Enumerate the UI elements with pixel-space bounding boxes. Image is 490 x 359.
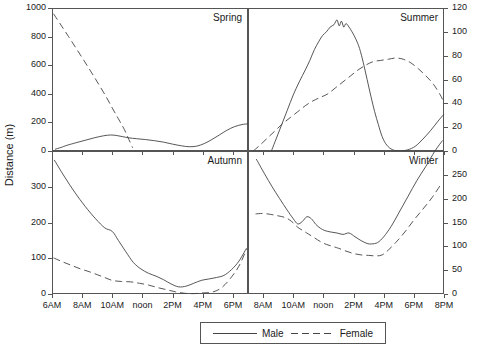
series-line-female [253,58,444,151]
y-tick-label: 150 [452,217,484,227]
y-axis-label: Distance (m) [0,0,20,310]
x-tick-mark [203,294,204,298]
y-tick-mark [444,56,448,57]
plot-area-spring [52,8,248,151]
y-tick-mark [444,103,448,104]
x-tick-mark [82,294,83,298]
y-tick-label: 60 [452,74,484,84]
y-tick-label: 1000 [16,2,46,12]
x-tick-mark [323,294,324,298]
legend-item-male: Male [213,328,284,339]
x-tick-mark [384,294,385,298]
x-tick-mark [173,294,174,298]
y-tick-label: 80 [452,50,484,60]
series-line-male [271,20,444,151]
y-tick-label: 250 [452,169,484,179]
y-tick-label: 0 [452,288,484,298]
x-tick-mark [444,151,445,155]
series-line-male [256,141,442,245]
x-tick-mark [444,294,445,298]
y-tick-label: 0 [16,145,46,155]
legend-swatch-male [213,333,257,334]
legend-item-female: Female [291,328,373,339]
y-tick-label: 400 [16,88,46,98]
y-tick-label: 0 [16,288,46,298]
x-tick-mark [263,294,264,298]
series-line-male [55,124,248,149]
y-tick-label: 800 [16,31,46,41]
y-tick-mark [444,8,448,9]
y-tick-mark [444,199,448,200]
x-tick-mark [293,294,294,298]
y-tick-mark [444,80,448,81]
y-tick-label: 20 [452,121,484,131]
y-tick-label: 200 [16,217,46,227]
series-line-male [54,160,246,287]
y-tick-label: 100 [16,252,46,262]
y-tick-mark [444,32,448,33]
y-tick-label: 200 [16,116,46,126]
y-tick-label: 100 [452,240,484,250]
plot-area-summer [248,8,444,151]
y-tick-label: 100 [452,26,484,36]
legend-swatch-female [291,333,335,334]
y-tick-mark [444,127,448,128]
y-tick-label: 200 [452,193,484,203]
legend-label-female: Female [340,328,373,339]
y-tick-label: 50 [452,264,484,274]
y-tick-mark [444,270,448,271]
y-tick-label: 0 [452,145,484,155]
y-tick-label: 300 [16,181,46,191]
figure-container: Distance (m) Spring02004006008001000Summ… [0,0,490,359]
x-tick-mark [112,294,113,298]
y-tick-label: 40 [452,97,484,107]
x-tick-mark [354,294,355,298]
x-tick-mark [233,294,234,298]
y-tick-label: 120 [452,2,484,12]
y-tick-mark [444,223,448,224]
plot-area-autumn [52,151,248,294]
x-tick-mark [52,294,53,298]
x-tick-label: 8PM [424,300,464,310]
plot-area-winter [248,151,444,294]
series-line-female [54,249,247,293]
chart-legend: MaleFemale [200,322,386,344]
x-tick-mark [142,294,143,298]
y-tick-label: 600 [16,59,46,69]
y-tick-mark [444,246,448,247]
y-tick-mark [444,175,448,176]
x-tick-mark [414,294,415,298]
series-line-female [54,14,133,148]
series-line-female [256,184,441,256]
legend-label-male: Male [262,328,284,339]
